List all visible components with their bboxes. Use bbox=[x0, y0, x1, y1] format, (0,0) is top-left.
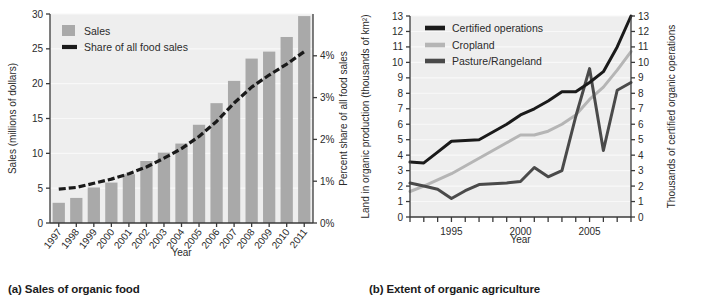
y-tick-label: 3 bbox=[397, 165, 403, 176]
y-tick-label-right: 5 bbox=[638, 134, 644, 145]
y-tick-label: 5 bbox=[37, 183, 43, 194]
x-tick-label: 2006 bbox=[199, 226, 222, 251]
y-tick-label-right: 1 bbox=[638, 196, 644, 207]
y-tick-label: 1 bbox=[397, 196, 403, 207]
y-tick-label: 6 bbox=[397, 119, 403, 130]
y-tick-label: 11 bbox=[393, 41, 404, 52]
y-tick-label: 15 bbox=[32, 113, 44, 124]
y-tick-label-right: 3 bbox=[638, 165, 644, 176]
y-axis-left-title: Land in organic production (thousands of… bbox=[360, 14, 371, 218]
legend-label-share: Share of all food sales bbox=[84, 41, 188, 53]
chart-panel-a: 0510152025300%1%2%3%4%199719981999200020… bbox=[0, 0, 355, 301]
y-tick-label-right: 11 bbox=[638, 41, 649, 52]
extent-of-organic-agriculture-chart: 0123456789101112130123456789101112131995… bbox=[355, 0, 709, 262]
bar bbox=[123, 174, 135, 223]
y-axis-right-title: Percent share of all food sales bbox=[338, 51, 349, 186]
x-tick-label: 2002 bbox=[129, 226, 152, 251]
y-axis-left-title: Sales (millions of dollars) bbox=[7, 63, 18, 174]
sales-of-organic-food-chart: 0510152025300%1%2%3%4%199719981999200020… bbox=[0, 0, 355, 262]
panel-b-caption: (b) Extent of organic agriculture bbox=[369, 283, 540, 295]
y-tick-label: 25 bbox=[32, 43, 44, 54]
bar bbox=[158, 153, 170, 223]
y-tick-label-right: 8 bbox=[638, 88, 644, 99]
y-tick-label: 30 bbox=[32, 9, 44, 20]
y-tick-label: 12 bbox=[392, 26, 404, 37]
y-axis-left-ticks: 012345678910111213 bbox=[392, 11, 410, 223]
x-tick-label: 2005 bbox=[578, 226, 601, 237]
bar bbox=[53, 203, 65, 223]
y-tick-label-right: 4 bbox=[638, 150, 644, 161]
y-tick-label-right: 10 bbox=[638, 57, 650, 68]
y-axis-right-ticks: 0%1%2%3%4% bbox=[313, 50, 335, 228]
y-tick-label: 10 bbox=[392, 57, 404, 68]
y-tick-label: 9 bbox=[397, 72, 403, 83]
x-tick-label: 2011 bbox=[287, 226, 309, 250]
y-tick-label-right: 6 bbox=[638, 119, 644, 130]
y-tick-label: 7 bbox=[397, 103, 403, 114]
y-tick-label-right: 2 bbox=[638, 181, 644, 192]
y-tick-label: 13 bbox=[392, 11, 404, 22]
y-tick-label-right: 0 bbox=[638, 212, 644, 223]
x-tick-label: 1997 bbox=[41, 226, 64, 251]
y-tick-label-right: 9 bbox=[638, 72, 644, 83]
y-tick-label-right: 1% bbox=[320, 176, 335, 187]
legend-swatch-sales bbox=[62, 25, 75, 36]
x-tick-label: 2001 bbox=[112, 226, 135, 251]
y-tick-label: 2 bbox=[397, 181, 403, 192]
plot-area-a: 0510152025300%1%2%3%4%199719981999200020… bbox=[7, 9, 349, 258]
y-axis-right-ticks: 012345678910111213 bbox=[631, 11, 650, 223]
x-tick-label: 1999 bbox=[77, 226, 100, 251]
y-axis-left-ticks: 051015202530 bbox=[32, 9, 50, 229]
y-tick-label-right: 2% bbox=[320, 134, 335, 145]
y-tick-label-right: 12 bbox=[638, 26, 650, 37]
y-tick-label-right: 0% bbox=[320, 218, 335, 229]
figure-container: 0510152025300%1%2%3%4%199719981999200020… bbox=[0, 0, 709, 301]
y-tick-label-right: 4% bbox=[320, 50, 335, 61]
x-tick-label: 2000 bbox=[94, 226, 117, 251]
bar bbox=[246, 59, 258, 223]
bar bbox=[175, 144, 187, 223]
bar bbox=[70, 198, 82, 223]
legend-label-sales: Sales bbox=[84, 25, 110, 37]
x-tick-label: 2007 bbox=[217, 226, 240, 251]
bar bbox=[88, 187, 100, 223]
legend-label-cropland: Cropland bbox=[452, 39, 495, 51]
y-tick-label-right: 13 bbox=[638, 11, 650, 22]
legend-label-pasture-rangeland: Pasture/Rangeland bbox=[452, 55, 542, 67]
legend-label-certified-operations: Certified operations bbox=[452, 22, 543, 34]
y-tick-label: 20 bbox=[32, 78, 44, 89]
y-tick-label: 4 bbox=[397, 150, 403, 161]
bar bbox=[105, 183, 117, 223]
x-tick-label: 1998 bbox=[59, 226, 82, 251]
x-tick-label: 2003 bbox=[147, 226, 170, 251]
x-tick-label: 2010 bbox=[269, 226, 292, 251]
y-tick-label: 5 bbox=[397, 134, 403, 145]
y-axis-right-title: Thousands of certified organic operation… bbox=[666, 25, 677, 208]
y-tick-label: 8 bbox=[397, 88, 403, 99]
plot-area-b: 0123456789101112130123456789101112131995… bbox=[360, 11, 677, 246]
x-axis-title: Year bbox=[510, 234, 531, 245]
y-tick-label: 0 bbox=[397, 212, 403, 223]
x-tick-label: 2009 bbox=[252, 226, 275, 251]
chart-panel-b: 0123456789101112130123456789101112131995… bbox=[355, 0, 709, 301]
panel-a-caption: (a) Sales of organic food bbox=[8, 283, 140, 295]
y-tick-label-right: 7 bbox=[638, 103, 644, 114]
bar bbox=[298, 16, 310, 223]
x-tick-label: 1995 bbox=[440, 226, 463, 237]
x-axis-title: Year bbox=[171, 247, 192, 258]
y-tick-label-right: 3% bbox=[320, 92, 335, 103]
y-tick-label: 10 bbox=[32, 148, 44, 159]
y-tick-label: 0 bbox=[37, 218, 43, 229]
x-tick-label: 2008 bbox=[234, 226, 257, 251]
